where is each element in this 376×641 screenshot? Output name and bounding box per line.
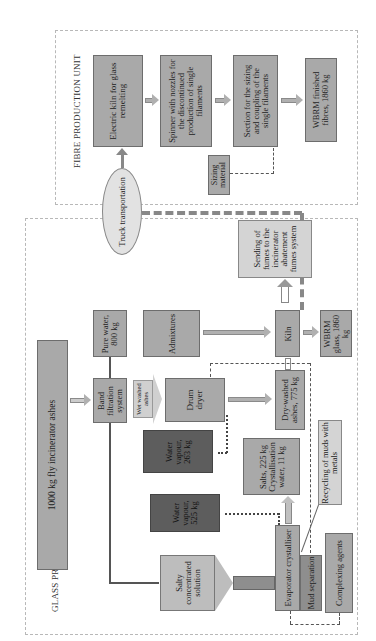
arrow-evaporator-to-salts (285, 502, 292, 524)
truck-transportation-label: Truck transportation (118, 172, 127, 252)
dryer-vapour-dotted-v (226, 415, 228, 453)
water-to-filtration-line (109, 357, 111, 378)
complexing-agents-box: Complexing agents (325, 533, 353, 613)
spinner-label: Spinner with nozzles for the discontinue… (168, 58, 204, 144)
transport-route-horizontal (142, 211, 302, 215)
wet-washed-label: Wet washed ashes (136, 381, 150, 417)
recycling-muds-box: Recycling of muds with metals (318, 420, 342, 505)
electric-kiln-label: Electric kiln for glass remelting (109, 59, 128, 143)
band-filtration-label: Band filtration system (97, 379, 124, 423)
recycle-dashed-left (210, 363, 211, 377)
complexing-agents-label: Complexing agents (335, 534, 344, 612)
evaporator-box: Evaporator crystalliser (275, 525, 300, 611)
dry-washed-box: Dry-washed ashes, 775 kg (275, 370, 305, 430)
drum-dryer-label: Drum dryer (186, 379, 205, 421)
sizing-section-label: Section for the sizing and coupling of t… (242, 58, 269, 144)
arrow-spinner-to-sizing (215, 98, 225, 103)
complexing-dashed-right (339, 613, 340, 624)
arrow-drywashed-to-kiln (285, 358, 291, 370)
arrow-dryer-to-drywashed (228, 397, 266, 402)
arrow-kiln-to-spinner (145, 98, 153, 103)
arrow-ashes-to-filtration (70, 398, 85, 403)
salty-solution-label: Salty concentrated solution (174, 558, 201, 608)
hopper-to-evaporator-pipe (233, 576, 275, 590)
mud-separation-box: Mud separation (300, 555, 322, 611)
dry-washed-label: Dry-washed ashes, 775 kg (281, 371, 299, 429)
sizing-material-label: Sizing material (211, 156, 228, 194)
filtration-to-solution-line-h (109, 582, 159, 584)
ashes-input-box: 1000 kg fly incinerator ashes (37, 340, 68, 570)
arrow-kiln-to-glass (303, 330, 313, 335)
dryer-vapour-dotted-h (218, 452, 227, 454)
wbrm-glass-label: WBRM glass, 1860 kg (323, 312, 350, 356)
wet-washed-arrowhead-icon (153, 374, 162, 424)
evaporator-vapour-dotted-v (278, 513, 280, 525)
recycling-muds-label: Recycling of muds with metals (321, 422, 339, 504)
evaporator-label: Evaporator crystalliser (283, 526, 292, 610)
drum-dryer-box: Drum dryer (165, 378, 225, 422)
sizing-material-box: Sizing material (208, 155, 230, 195)
band-filtration-box: Band filtration system (93, 378, 127, 423)
admixtures-label: Admixtures (167, 312, 176, 356)
wet-washed-arrow: Wet washed ashes (133, 380, 153, 418)
admixtures-box: Admixtures (143, 310, 200, 357)
spinner-box: Spinner with nozzles for the discontinue… (160, 55, 212, 147)
salts-label: Salts, 225 kg Crystallisation water, 11 … (258, 439, 285, 494)
fibre-unit-label: FIBRE PRODUCTION UNIT (72, 54, 82, 168)
salty-solution-box: Salty concentrated solution (160, 555, 215, 611)
water-vapour-525-box: Water vapour, 525 kg (150, 494, 220, 532)
water-vapour-263-label: Water vapour, 263 kg (165, 432, 192, 472)
kiln-box: Kiln (275, 310, 300, 357)
sizing-dashed-connector-v (273, 148, 274, 174)
sizing-dashed-connector-h (230, 173, 274, 174)
arrow-sizing-to-fibres (281, 98, 297, 103)
arrow-admixtures-to-kiln (203, 330, 265, 335)
salty-solution-hopper (215, 555, 233, 611)
fumes-up-arrow (281, 285, 289, 303)
complexing-dashed-bottom (290, 624, 340, 625)
recycle-dashed-top (210, 363, 310, 364)
electric-kiln-box: Electric kiln for glass remelting (93, 55, 143, 147)
kiln-label: Kiln (283, 312, 292, 356)
wbrm-glass-box: WBRM glass, 1860 kg (320, 310, 352, 357)
finished-fibres-label: WBRM finished fibres, 1860 kg (312, 62, 330, 138)
complexing-dashed-left (290, 611, 291, 624)
filtration-to-solution-line-v (109, 423, 111, 583)
mud-separation-label: Mud separation (307, 556, 316, 610)
sizing-section-box: Section for the sizing and coupling of t… (233, 55, 278, 147)
pure-water-label: Pure water, 800 kg (101, 312, 119, 356)
water-vapour-525-label: Water vapour, 525 kg (172, 495, 199, 531)
salts-box: Salts, 225 kg Crystallisation water, 11 … (243, 438, 300, 495)
fumes-box: Sending of fumes to the incinerator abat… (238, 220, 312, 278)
fumes-label: Sending of fumes to the incinerator abat… (253, 221, 298, 277)
evaporator-vapour-dotted-h (225, 513, 279, 515)
salts-arrowhead-icon (281, 496, 295, 503)
truck-arrowhead-icon (116, 148, 128, 155)
water-vapour-263-box: Water vapour, 263 kg (143, 430, 213, 473)
pure-water-box: Pure water, 800 kg (93, 310, 127, 357)
fumes-arrowhead-icon (277, 279, 293, 287)
ashes-input-label: 1000 kg fly incinerator ashes (48, 345, 58, 565)
truck-transportation-ellipse: Truck transportation (102, 168, 142, 255)
finished-fibres-box: WBRM finished fibres, 1860 kg (305, 58, 337, 142)
